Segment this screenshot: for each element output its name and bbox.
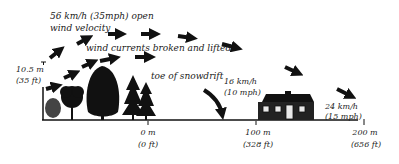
- wind-arrow-icon: [178, 36, 192, 38]
- wind-arrow-icon: [82, 62, 93, 67]
- speed-near-house-imperial: (10 mph): [224, 89, 261, 97]
- tick-label-0m-metric: 0 m: [136, 129, 160, 137]
- height-imperial-label: (35 ft): [16, 77, 41, 85]
- open-wind-label-line2: wind velocity: [50, 24, 110, 33]
- tick-label-200m-metric: 200 m: [348, 129, 382, 137]
- large-tree-icon: [87, 66, 120, 120]
- tick-label-100m-imperial: (328 ft): [238, 141, 278, 149]
- snowdrift-label: toe of snowdrift: [151, 72, 223, 81]
- shrub-icon: [45, 98, 61, 118]
- windbreak-diagram: 56 km/h (35mph) open wind velocity wind …: [0, 0, 399, 164]
- tick-label-100m-metric: 100 m: [242, 129, 274, 137]
- wind-arrow-icon: [64, 73, 75, 78]
- house-icon: [258, 91, 314, 120]
- deciduous-tree-icon: [60, 86, 84, 120]
- wind-arrow-icon: [100, 58, 115, 61]
- wind-arrow-icon: [337, 89, 351, 96]
- broken-currents-label: wind currents broken and lifted: [86, 44, 231, 53]
- height-metric-label: 10.5 m: [16, 66, 44, 74]
- conifer-tree-icon: [122, 75, 156, 120]
- tick-label-0m-imperial: (0 ft): [134, 141, 162, 149]
- speed-near-house-metric: 16 km/h: [224, 78, 257, 86]
- wind-arrow-icon: [46, 86, 57, 89]
- tick-label-200m-imperial: (656 ft): [345, 141, 387, 149]
- speed-after-house-metric: 24 km/h: [325, 103, 358, 111]
- wind-arrow-icon: [285, 67, 298, 73]
- wind-arrow-icon: [50, 50, 60, 58]
- open-wind-label-line1: 56 km/h (35mph) open: [50, 12, 154, 21]
- speed-after-house-imperial: (15 mph): [325, 113, 362, 121]
- snowdrift-arrow-icon: [204, 90, 222, 114]
